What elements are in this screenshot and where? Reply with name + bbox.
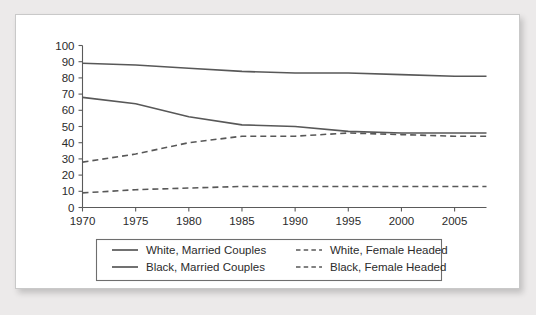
y-tick-group [79,46,83,208]
x-tick-group [83,208,455,212]
y-tick-label: 100 [55,40,74,52]
series-line-black-married-couples [83,97,487,133]
legend-label-white-female-headed: White, Female Headed [330,244,448,256]
x-axis: 19701975198019851990199520002005 [70,208,487,227]
line-chart: 0102030405060708090100 19701975198019851… [16,15,521,290]
x-tick-label: 2005 [442,215,468,227]
y-tick-label: 90 [62,56,75,68]
legend-label-black-female-headed: Black, Female Headed [330,261,446,273]
legend-label-white-married-couples: White, Married Couples [146,244,266,256]
x-tick-label: 2000 [389,215,415,227]
y-tick-label: 50 [62,121,75,133]
chart-svg: 0102030405060708090100 19701975198019851… [16,15,521,290]
legend-label-black-married-couples: Black, Married Couples [146,261,265,273]
y-tick-label: 40 [62,137,75,149]
series-line-black-female-headed [83,133,487,162]
x-tick-label: 1980 [176,215,202,227]
series-line-white-married-couples [83,63,487,76]
y-tick-label: 30 [62,153,75,165]
x-tick-label: 1985 [229,215,255,227]
y-tick-label: 60 [62,104,75,116]
y-tick-label: 80 [62,72,75,84]
y-tick-label: 70 [62,88,75,100]
y-tick-label: 0 [68,202,74,214]
x-tick-label: 1995 [335,215,361,227]
x-tick-label: 1975 [123,215,149,227]
y-axis: 0102030405060708090100 [55,40,82,214]
series-line-white-female-headed [83,186,487,192]
y-tick-label: 20 [62,169,75,181]
figure-panel: 0102030405060708090100 19701975198019851… [15,14,520,289]
legend: White, Married CouplesWhite, Female Head… [97,240,448,281]
series-group [83,63,487,193]
y-tick-label-group: 0102030405060708090100 [55,40,74,214]
x-tick-label-group: 19701975198019851990199520002005 [70,215,468,227]
y-tick-label: 10 [62,185,75,197]
x-tick-label: 1970 [70,215,96,227]
x-tick-label: 1990 [282,215,308,227]
